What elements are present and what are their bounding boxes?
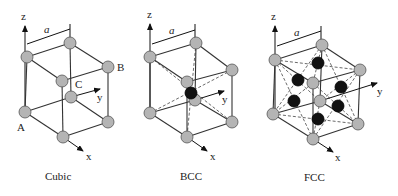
cube-edge: [187, 70, 232, 82]
x-axis-label: x: [335, 151, 341, 163]
corner-atom: [65, 91, 77, 103]
y-axis-label: y: [97, 91, 103, 103]
corner-atom: [144, 51, 156, 63]
cube-edge: [313, 124, 358, 139]
face-center-atom: [292, 74, 304, 86]
corner-atom-b: [102, 61, 114, 73]
cube-edge: [63, 122, 108, 137]
corner-atom: [226, 116, 238, 128]
face-center-atom: [288, 95, 300, 107]
point-label-a: A: [17, 121, 25, 133]
cube-edge: [70, 43, 108, 67]
caption-cubic: Cubic: [45, 170, 71, 182]
lattice-param-label: a: [169, 24, 175, 36]
cube-edge: [358, 70, 360, 124]
cube-edge: [322, 45, 360, 70]
caption-fcc: FCC: [304, 171, 325, 183]
corner-atom: [307, 77, 319, 89]
point-label-c: C: [75, 78, 82, 90]
cube-edge: [150, 113, 187, 137]
corner-atom: [144, 107, 156, 119]
corner-atom: [354, 64, 366, 76]
corner-atom-c: [56, 75, 68, 87]
cubic-unit-cell: z a y x B C: [17, 10, 124, 182]
body-center-atom: [185, 87, 197, 99]
face-center-atom: [332, 100, 344, 112]
corner-atom: [314, 95, 326, 107]
cube-edge: [273, 114, 313, 139]
face-center-atom: [312, 57, 324, 69]
y-axis-label: y: [377, 85, 383, 97]
corner-atom: [267, 108, 279, 120]
x-axis-label: x: [210, 150, 216, 162]
cube-edge: [25, 97, 71, 112]
point-label-b: B: [117, 61, 124, 73]
lattice-param-label: a: [294, 26, 300, 38]
cube-edge: [187, 122, 232, 137]
corner-atom: [269, 54, 281, 66]
crystal-lattice-diagram: z a y x B C: [0, 0, 398, 196]
corner-atom: [316, 39, 328, 51]
corner-atom: [226, 64, 238, 76]
bcc-unit-cell: z a y x: [144, 8, 238, 182]
cube-edge: [150, 100, 195, 113]
corner-atom: [307, 133, 319, 145]
cube-edge: [62, 81, 63, 137]
cube-edge: [320, 45, 322, 101]
z-axis-label: z: [147, 8, 152, 20]
corner-atom: [352, 118, 364, 130]
corner-atom: [21, 51, 33, 63]
cube-edge: [70, 43, 71, 97]
y-axis-label: y: [222, 93, 228, 105]
corner-atom: [64, 37, 76, 49]
cube-edge: [27, 43, 70, 57]
corner-atom: [190, 37, 202, 49]
x-axis-label: x: [86, 150, 92, 162]
cube-edge: [150, 43, 196, 57]
face-center-atom: [335, 81, 347, 93]
corner-atom: [181, 76, 193, 88]
corner-atom-a: [19, 106, 31, 118]
corner-atom: [181, 131, 193, 143]
face-center-atom: [312, 113, 324, 125]
cube-edge: [62, 67, 108, 81]
cube-edge: [150, 57, 187, 82]
lattice-param-label: a: [44, 23, 50, 35]
cube-edge: [313, 70, 360, 83]
corner-atom: [102, 116, 114, 128]
y-axis-arrow: [320, 83, 377, 101]
z-axis-label: z: [271, 10, 276, 22]
cube-edge: [196, 43, 232, 70]
cube-edge: [25, 112, 63, 137]
z-axis-label: z: [21, 10, 26, 22]
fcc-unit-cell: z a: [267, 10, 383, 183]
caption-bcc: BCC: [180, 170, 202, 182]
corner-atom: [57, 131, 69, 143]
